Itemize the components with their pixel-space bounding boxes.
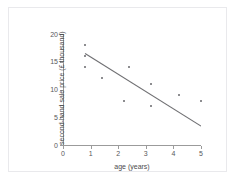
x-tick-mark <box>146 146 147 149</box>
scatter-plot: 05101520 012345 second-hand sale price (… <box>0 0 235 186</box>
trend-line <box>63 34 201 146</box>
x-tick-label: 2 <box>111 150 125 157</box>
x-tick-label: 4 <box>166 150 180 157</box>
x-tick-mark <box>91 146 92 149</box>
x-tick-label: 3 <box>139 150 153 157</box>
trend-line-segment <box>85 53 201 126</box>
x-axis-label: age (years) <box>63 163 201 171</box>
x-tick-mark <box>118 146 119 149</box>
y-axis-label-host: second-hand sale price (£ thousand) <box>34 33 46 145</box>
x-tick-mark <box>173 146 174 149</box>
x-tick-label: 5 <box>194 150 208 157</box>
x-tick-label: 0 <box>56 150 70 157</box>
x-tick-mark <box>201 146 202 149</box>
chart-page: 05101520 012345 second-hand sale price (… <box>0 0 235 186</box>
x-tick-label: 1 <box>84 150 98 157</box>
x-tick-mark <box>63 146 64 149</box>
